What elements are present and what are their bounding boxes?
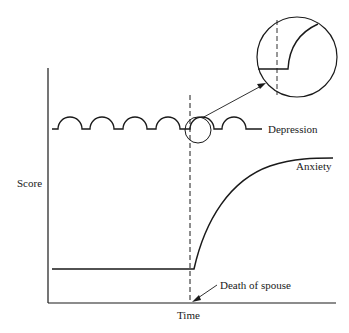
event-arrow xyxy=(192,285,217,302)
stress-response-diagram: Score Time Depression Anxiety Death of s… xyxy=(0,0,349,333)
y-axis-label: Score xyxy=(17,177,42,189)
x-axis-label: Time xyxy=(177,309,200,321)
magnify-arrow xyxy=(202,83,266,118)
magnify-circle-large xyxy=(257,17,337,97)
inset-magnified-view xyxy=(257,17,337,97)
anxiety-curve xyxy=(52,158,333,269)
magnify-circle-small xyxy=(185,117,211,143)
anxiety-label: Anxiety xyxy=(296,160,332,172)
event-label: Death of spouse xyxy=(220,279,291,291)
depression-curve xyxy=(52,117,262,129)
depression-label: Depression xyxy=(268,123,318,135)
axes xyxy=(48,68,336,303)
